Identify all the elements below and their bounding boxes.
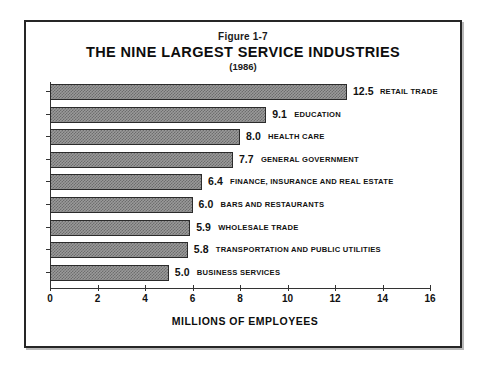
x-axis-tick: [430, 285, 431, 291]
bar: [50, 197, 193, 213]
bar-category-label: TRANSPORTATION AND PUBLIC UTILITIES: [216, 245, 381, 254]
bar-category-label: RETAIL TRADE: [380, 87, 438, 96]
bar-value-label: 9.1: [272, 108, 287, 120]
bar: [50, 152, 233, 168]
x-axis-tick-label: 16: [418, 293, 442, 304]
x-axis-tick-label: 0: [38, 293, 62, 304]
bar: [50, 220, 190, 236]
x-axis-tick: [193, 285, 194, 291]
bar-value-label: 8.0: [246, 130, 261, 142]
x-axis-tick-label: 4: [133, 293, 157, 304]
bar: [50, 174, 202, 190]
bar: [50, 242, 188, 258]
x-axis-title: MILLIONS OF EMPLOYEES: [26, 315, 464, 327]
x-axis-tick: [288, 285, 289, 291]
bar-category-label: WHOLESALE TRADE: [218, 223, 299, 232]
bar-value-label: 5.9: [196, 221, 211, 233]
bar-category-label: EDUCATION: [294, 110, 341, 119]
bar-value-label: 7.7: [239, 153, 254, 165]
bar-category-label: BUSINESS SERVICES: [197, 268, 280, 277]
bar-category-label: HEALTH CARE: [268, 132, 325, 141]
x-axis-tick: [50, 285, 51, 291]
bar: [50, 265, 169, 281]
bar-value-label: 6.4: [208, 175, 223, 187]
bar: [50, 129, 240, 145]
bar-chart-plot-area: 12.5RETAIL TRADE9.1EDUCATION8.0HEALTH CA…: [26, 22, 464, 350]
x-axis-tick: [240, 285, 241, 291]
x-axis-tick-label: 12: [323, 293, 347, 304]
bar-value-label: 6.0: [199, 198, 214, 210]
bar-category-label: FINANCE, INSURANCE AND REAL ESTATE: [230, 177, 393, 186]
x-axis-tick: [383, 285, 384, 291]
x-axis-tick: [98, 285, 99, 291]
bar-category-label: GENERAL GOVERNMENT: [261, 155, 359, 164]
x-axis-tick-label: 10: [276, 293, 300, 304]
x-axis-tick-label: 2: [86, 293, 110, 304]
x-axis-tick-label: 6: [181, 293, 205, 304]
bar-value-label: 5.0: [175, 266, 190, 278]
x-axis-tick: [145, 285, 146, 291]
figure-frame: Figure 1-7 THE NINE LARGEST SERVICE INDU…: [24, 20, 462, 348]
bar: [50, 107, 266, 123]
x-axis-tick: [335, 285, 336, 291]
bar-category-label: BARS AND RESTAURANTS: [221, 200, 325, 209]
x-axis-tick-label: 8: [228, 293, 252, 304]
x-axis-tick-label: 14: [371, 293, 395, 304]
bar-value-label: 12.5: [353, 85, 374, 97]
bar: [50, 84, 347, 100]
bar-value-label: 5.8: [194, 243, 209, 255]
